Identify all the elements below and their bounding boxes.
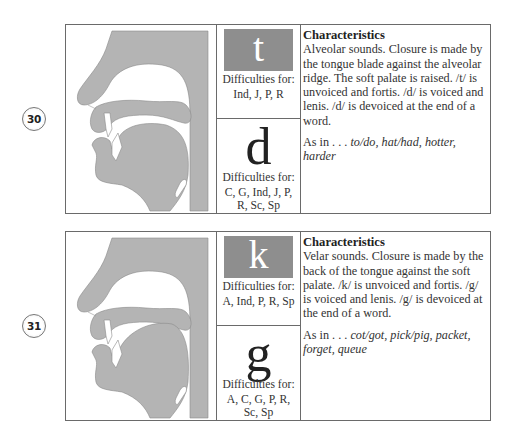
characteristics-body: Velar sounds. Closure is made by the bac… [303,249,489,320]
vocal-tract-icon [66,232,216,420]
unvoiced-phoneme-cell: k Difficulties for: A, Ind, P, R, Sp [217,232,300,326]
characteristics-heading: Characteristics [303,28,489,42]
difficulties-list: A, C, G, P, R, Sc, Sp [217,393,300,419]
vocal-tract-diagram-velar [66,232,216,420]
phoneme-column: t Difficulties for: Ind, J, P, R d Diffi… [216,25,301,213]
phoneme-column: k Difficulties for: A, Ind, P, R, Sp g D… [216,232,301,420]
difficulties-list: Ind, J, P, R [217,88,300,101]
difficulties-label: Difficulties for: [217,378,300,391]
characteristics-body: Alveolar sounds. Closure is made by the … [303,42,489,128]
characteristics-panel: Characteristics Velar sounds. Closure is… [303,235,489,356]
examples-line: As in . . . to/do, hat/had, hotter, hard… [303,135,489,164]
difficulties-list: C, G, Ind, J, P, R, Sc, Sp [217,186,300,212]
phoneme-symbol-k: k [224,236,293,278]
difficulties-label: Difficulties for: [217,280,300,293]
difficulties-label: Difficulties for: [217,73,300,86]
phoneme-symbol-d: d [217,125,300,169]
examples-line: As in . . . cot/got, pick/pig, packet, f… [303,328,489,357]
phoneme-symbol-g: g [217,332,300,376]
item-number-badge: 31 [22,314,46,338]
phoneme-symbol-t: t [224,29,293,71]
vocal-tract-icon [66,25,216,213]
vocal-tract-diagram-alveolar [66,25,216,213]
unvoiced-phoneme-cell: t Difficulties for: Ind, J, P, R [217,25,300,119]
examples-prefix: As in . . . [303,135,347,149]
voiced-phoneme-cell: d Difficulties for: C, G, Ind, J, P, R, … [217,119,300,213]
characteristics-panel: Characteristics Alveolar sounds. Closure… [303,28,489,164]
phoneme-card-k-g: k Difficulties for: A, Ind, P, R, Sp g D… [65,231,491,421]
voiced-phoneme-cell: g Difficulties for: A, C, G, P, R, Sc, S… [217,326,300,420]
phoneme-card-t-d: t Difficulties for: Ind, J, P, R d Diffi… [65,24,491,214]
difficulties-label: Difficulties for: [217,171,300,184]
item-number-badge: 30 [22,107,46,131]
characteristics-heading: Characteristics [303,235,489,249]
difficulties-list: A, Ind, P, R, Sp [217,295,300,308]
examples-prefix: As in . . . [303,328,347,342]
